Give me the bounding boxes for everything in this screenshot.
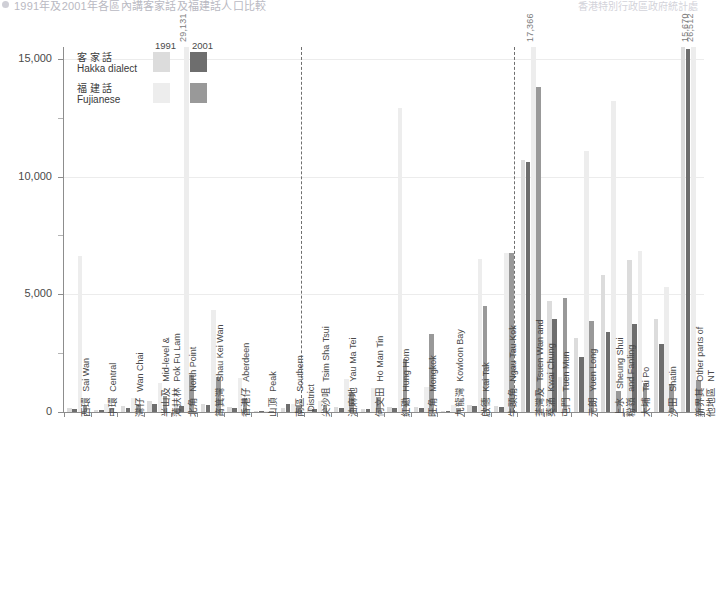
bar[interactable] [387, 407, 392, 412]
bar[interactable] [579, 357, 584, 412]
bar[interactable] [94, 410, 99, 412]
x-category-label: 上水 Sheung Shui粉嶺 and Fanling [615, 338, 625, 417]
legend-label-hakka: 客家話Hakka dialect [77, 52, 137, 74]
x-category-label-line1: 半山及 Mid-level & [160, 337, 171, 417]
bar[interactable] [414, 407, 419, 412]
bar[interactable] [494, 406, 499, 412]
bar[interactable] [654, 319, 659, 412]
chart-legend: 19912001客家話Hakka dialect福建話Fujianese [77, 40, 277, 110]
x-category-label: 大埔 Tai Po [641, 367, 651, 417]
bar[interactable] [499, 407, 504, 412]
legend-swatch[interactable] [153, 83, 170, 103]
bar[interactable] [601, 275, 606, 412]
bar[interactable] [227, 407, 232, 412]
bar[interactable] [254, 411, 259, 412]
bar[interactable] [659, 344, 664, 412]
x-category-label: 南區 Southern District [295, 355, 305, 417]
bar[interactable] [232, 408, 237, 412]
x-category-label-line1: 新界其 Other parts of [694, 327, 705, 417]
x-category-label-line1: 啟德 Kai Tak [480, 362, 491, 417]
bar[interactable] [472, 406, 477, 412]
x-category-label-line1: 大埔 Tai Po [640, 367, 651, 417]
x-category-label-line2: 薄扶林 Pok Fu Lam [172, 333, 182, 417]
bar[interactable] [121, 406, 126, 412]
legend-year-2001: 2001 [192, 40, 213, 51]
bar[interactable] [574, 338, 579, 412]
x-category-label: 北角 North Point [188, 347, 198, 417]
x-category-label-line1: 南區 Southern [294, 355, 305, 417]
x-category-label: 牛頭角 Ngau Tau Kok [508, 325, 518, 417]
bar[interactable] [686, 49, 691, 412]
bar-value-label: 17,366 [525, 13, 535, 42]
bar[interactable] [147, 401, 152, 412]
x-category-label-line1: 筲箕灣 Shau Kei Wan [214, 325, 225, 417]
x-category-label: 半山及 Mid-level &薄扶林 Pok Fu Lam [161, 337, 171, 417]
x-category-label-line1: 九龍灣 Kowloon Bay [454, 329, 465, 417]
bar[interactable] [99, 410, 104, 412]
y-tick-label: 0 [0, 405, 52, 417]
x-category-label: 油麻地 Yau Ma Tei [348, 338, 358, 417]
bar[interactable] [392, 408, 397, 412]
x-category-label-line1: 上水 Sheung Shui [614, 338, 625, 417]
bar[interactable] [339, 408, 344, 412]
bar[interactable] [259, 411, 264, 412]
bar[interactable] [521, 160, 526, 412]
bar[interactable] [366, 409, 371, 412]
x-category-label-line1: 旺角 Mongkok [427, 355, 438, 417]
x-category-label-line2: District [306, 384, 316, 417]
x-category-label-line1: 西環 Sai Wan [80, 358, 91, 417]
bar[interactable] [286, 404, 291, 412]
bar[interactable] [606, 332, 611, 412]
x-category-label: 紅磡 Hung Hom [401, 349, 411, 417]
x-category-label-line1: 尖沙咀 Tsim Sha Tsui [320, 326, 331, 417]
legend-swatch[interactable] [153, 52, 170, 72]
bar-group [654, 47, 674, 412]
x-category-label: 山頂 Peak [268, 371, 278, 417]
bar[interactable] [206, 405, 211, 412]
y-tick-label: 15,000 [0, 52, 52, 64]
bar[interactable] [152, 404, 157, 412]
bar[interactable] [67, 408, 72, 412]
x-category-label-line1: 屯門 Tuen Mun [560, 352, 571, 417]
x-category-label-line2: 粉嶺 and Fanling [626, 345, 636, 417]
x-category-label: 香港仔 Aberdeen [241, 343, 251, 417]
x-category-label: 九龍灣 Kowloon Bay [455, 329, 465, 417]
bar-value-label: 29,131 [178, 13, 188, 42]
bar[interactable] [281, 408, 286, 412]
x-category-label-line1: 灣仔 Wan Chai [134, 353, 145, 417]
bar[interactable] [467, 405, 472, 412]
legend-swatch[interactable] [190, 83, 207, 103]
x-category-label: 筲箕灣 Shau Kei Wan [215, 325, 225, 417]
x-category-label: 沙田 Shatin [668, 366, 678, 417]
x-category-label: 啟德 Kai Tak [481, 362, 491, 417]
bar[interactable] [334, 407, 339, 412]
bar[interactable] [526, 162, 531, 412]
x-category-label-line1: 何文田 Ho Man Tin [374, 336, 385, 417]
bar-value-label: 26,512 [685, 13, 695, 42]
bar[interactable] [361, 409, 366, 412]
y-tick-label: 5,000 [0, 287, 52, 299]
x-category-label-line1: 山頂 Peak [267, 371, 278, 417]
bar[interactable] [72, 409, 77, 412]
x-category-label: 荃灣及 Tsuen Wan and葵涌 Kwai Chung [535, 320, 545, 418]
bar[interactable] [201, 404, 206, 412]
x-category-label: 尖沙咀 Tsim Sha Tsui [321, 326, 331, 417]
x-category-label: 新界其 Other parts of他地區 NT [695, 327, 705, 417]
legend-swatch[interactable] [190, 52, 207, 72]
x-category-label: 元朗 Yuen Long [588, 349, 598, 417]
x-category-label-line1: 沙田 Shatin [667, 366, 678, 417]
bar[interactable] [441, 411, 446, 412]
x-category-label-line1: 油麻地 Yau Ma Tei [347, 338, 358, 417]
x-category-label: 西環 Sai Wan [81, 358, 91, 417]
bar[interactable] [446, 411, 451, 412]
bar[interactable] [419, 408, 424, 412]
x-category-label-line1: 中環 Central [107, 363, 118, 417]
x-tick [64, 412, 65, 417]
x-category-label: 何文田 Ho Man Tin [375, 336, 385, 417]
x-category-label: 旺角 Mongkok [428, 355, 438, 417]
bar-group [467, 47, 487, 412]
x-category-label-line1: 荃灣及 Tsuen Wan and [534, 320, 545, 418]
bar[interactable] [126, 408, 131, 412]
bar[interactable] [681, 47, 686, 412]
